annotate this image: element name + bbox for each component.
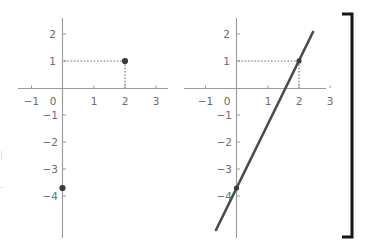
y-tick-label--4: −4 xyxy=(43,190,59,202)
x-axis-ticks xyxy=(32,86,157,89)
x-axis-ticks xyxy=(206,86,331,89)
guide-lines xyxy=(238,61,299,88)
y-tick-label--2: −2 xyxy=(217,136,232,148)
data-point-0-minus3 xyxy=(234,185,239,190)
x-tick-label--1: −1 xyxy=(198,95,213,107)
x-tick-label-1: 1 xyxy=(265,95,272,107)
data-point-2-1 xyxy=(296,58,301,63)
y-tick-label--3: −3 xyxy=(43,163,58,175)
x-tick-label-0: 0 xyxy=(50,95,57,107)
figure-container: −1 0 1 2 3 2 1 −1 −2 −3 −4 xyxy=(0,0,368,248)
x-tick-label-1: 1 xyxy=(91,95,98,107)
x-tick-label-2: 2 xyxy=(296,95,303,107)
x-tick-label-2: 2 xyxy=(122,95,129,107)
edge-artifact-lower: - xyxy=(0,182,7,192)
guide-lines xyxy=(64,61,125,88)
edge-artifact-upper: | xyxy=(0,150,7,160)
data-point-2-1 xyxy=(122,58,128,64)
x-tick-label-3: 3 xyxy=(327,95,334,107)
y-tick-label-2: 2 xyxy=(49,28,56,40)
bracket-stroke xyxy=(342,14,352,237)
y-tick-label--1: −1 xyxy=(43,109,58,121)
y-tick-label--3: −3 xyxy=(217,163,232,175)
data-point-0-minus3 xyxy=(59,185,65,191)
y-tick-label--2: −2 xyxy=(43,136,58,148)
y-tick-label--4: −4 xyxy=(217,190,233,202)
x-tick-label--1: −1 xyxy=(24,95,39,107)
y-tick-label-1: 1 xyxy=(223,55,230,67)
y-tick-label-2: 2 xyxy=(223,28,230,40)
x-tick-label-3: 3 xyxy=(153,95,160,107)
y-tick-label--1: −1 xyxy=(217,109,232,121)
x-tick-label-0: 0 xyxy=(224,95,231,107)
left-plot-svg: −1 0 1 2 3 2 1 −1 −2 −3 −4 xyxy=(0,0,184,248)
left-coordinate-plot: −1 0 1 2 3 2 1 −1 −2 −3 −4 xyxy=(0,0,184,248)
closing-square-bracket xyxy=(334,0,368,248)
y-tick-label-1: 1 xyxy=(49,55,56,67)
